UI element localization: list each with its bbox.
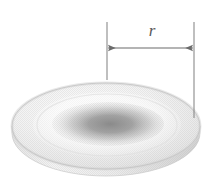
disk-body xyxy=(12,83,200,176)
disk-center-depression-texture xyxy=(52,102,164,146)
figure-container: r xyxy=(0,0,214,189)
disk-radius-figure: r xyxy=(0,0,214,189)
radius-label: r xyxy=(149,21,156,40)
